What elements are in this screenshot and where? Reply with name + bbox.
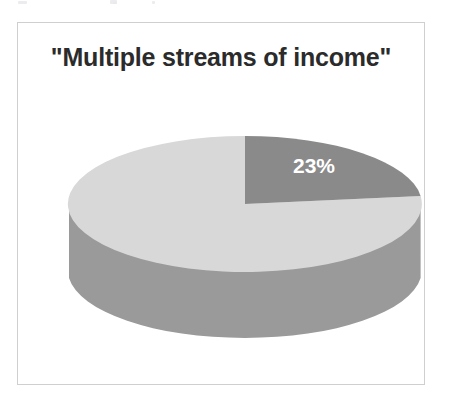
scan-artifact xyxy=(152,1,155,4)
pie-slice-data-label: 23% xyxy=(293,154,335,177)
screenshot-root: "Multiple streams of income" xyxy=(0,0,452,404)
pie-chart-plot-area: 23% xyxy=(18,93,424,384)
scan-artifact xyxy=(110,0,117,4)
scan-artifact-group xyxy=(0,0,452,14)
chart-title: "Multiple streams of income" xyxy=(18,43,424,72)
scan-artifact xyxy=(113,2,117,4)
pie-chart-svg: 23% xyxy=(18,93,424,384)
scan-artifact xyxy=(18,1,27,4)
chart-frame: "Multiple streams of income" xyxy=(17,22,425,385)
